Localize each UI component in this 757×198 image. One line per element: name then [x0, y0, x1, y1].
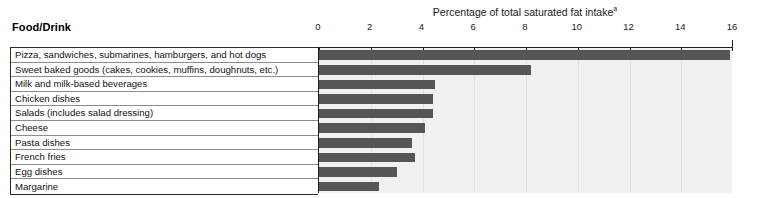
bar: [319, 182, 379, 192]
bar: [319, 80, 435, 90]
bar-row: [319, 150, 732, 165]
category-label: Margarine: [15, 182, 58, 192]
category-label: Pizza, sandwiches, submarines, hamburger…: [15, 50, 266, 60]
bar: [319, 123, 425, 133]
x-tick-label-4: 4: [419, 21, 424, 32]
bar-row: [319, 121, 732, 136]
x-tick-label-0: 0: [315, 21, 320, 32]
x-tick-label-14: 14: [675, 21, 686, 32]
x-tick-label-6: 6: [471, 21, 476, 32]
saturated-fat-bar-chart: Percentage of total saturated fat intake…: [0, 0, 757, 198]
bar: [319, 138, 412, 148]
chart-axis-title: Percentage of total saturated fat intake…: [318, 5, 732, 18]
bar-row: [319, 77, 732, 92]
chart-axis-title-text: Percentage of total saturated fat intake: [433, 6, 613, 18]
bar-row: [319, 136, 732, 151]
category-label: Chicken dishes: [15, 94, 80, 104]
category-label: Pasta dishes: [15, 138, 70, 148]
category-label-table: Pizza, sandwiches, submarines, hamburger…: [10, 47, 318, 195]
bar: [319, 65, 531, 75]
x-tick-label-12: 12: [623, 21, 634, 32]
bar: [319, 94, 433, 104]
category-label: French fries: [15, 152, 66, 162]
category-label: Milk and milk-based beverages: [15, 79, 147, 89]
axis-right-terminator: [732, 40, 733, 51]
category-row: Egg dishes: [11, 165, 318, 180]
category-label: Salads (includes salad dressing): [15, 108, 153, 118]
category-row: Sweet baked goods (cakes, cookies, muffi…: [11, 63, 318, 78]
bar: [319, 50, 730, 60]
bar-row: [319, 106, 732, 121]
bar-row: [319, 165, 732, 180]
bar: [319, 167, 397, 177]
category-row: Margarine: [11, 179, 318, 194]
x-tick-label-2: 2: [367, 21, 372, 32]
x-tick-label-16: 16: [727, 21, 738, 32]
category-row: Chicken dishes: [11, 92, 318, 107]
bar-row: [319, 92, 732, 107]
category-row: French fries: [11, 150, 318, 165]
x-tick-label-10: 10: [571, 21, 582, 32]
category-label: Egg dishes: [15, 167, 62, 177]
category-row: Pasta dishes: [11, 136, 318, 151]
x-tick-label-8: 8: [522, 21, 527, 32]
plot-area: [318, 47, 732, 193]
category-row: Salads (includes salad dressing): [11, 106, 318, 121]
category-row: Milk and milk-based beverages: [11, 77, 318, 92]
category-row: Pizza, sandwiches, submarines, hamburger…: [11, 48, 318, 63]
category-label: Sweet baked goods (cakes, cookies, muffi…: [15, 65, 278, 75]
bar: [319, 109, 433, 119]
bar-row: [319, 63, 732, 78]
bar-row: [319, 179, 732, 193]
bar-row: [319, 48, 732, 63]
category-row: Cheese: [11, 121, 318, 136]
category-column-header: Food/Drink: [12, 21, 71, 33]
chart-axis-title-superscript: a: [613, 5, 617, 12]
bar: [319, 153, 415, 163]
category-label: Cheese: [15, 123, 48, 133]
